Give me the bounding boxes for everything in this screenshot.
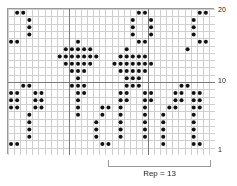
row-label-mid: 10 xyxy=(218,77,226,84)
chart-grid xyxy=(7,8,214,154)
repeat-label: Rep = 13 xyxy=(108,169,211,178)
repeat-bracket xyxy=(108,160,211,167)
chart-dot-grid xyxy=(8,9,215,155)
row-label-top: 20 xyxy=(218,6,226,13)
row-label-bottom: 1 xyxy=(218,146,222,153)
knitting-chart-page: 20 10 1 Rep = 13 xyxy=(0,0,237,186)
